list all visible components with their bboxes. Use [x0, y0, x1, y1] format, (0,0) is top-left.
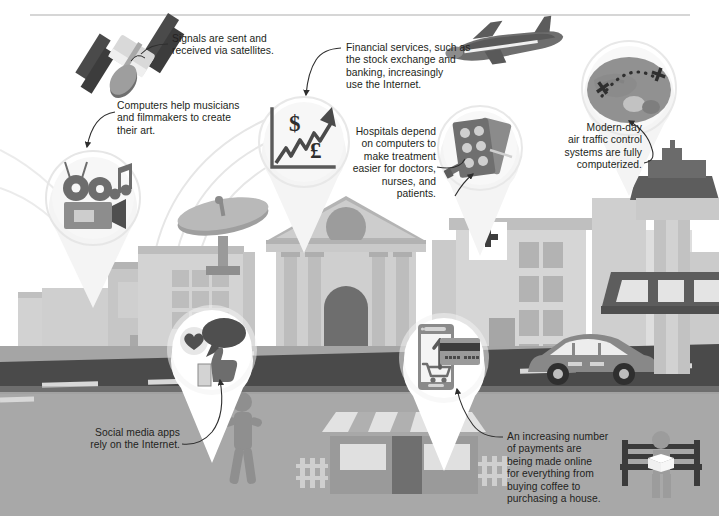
- leader-satellite-tick: [131, 56, 145, 61]
- air-traffic-control-callout: Modern-day air traffic control systems a…: [540, 122, 642, 172]
- financial-services-callout: Financial services, such as the stock ex…: [346, 42, 510, 92]
- leader-hospitals-a: [437, 159, 465, 168]
- leader-social: [182, 380, 222, 444]
- social-media-callout: Social media apps rely on the Internet.: [68, 427, 180, 452]
- online-payments-callout: An increasing number of payments are bei…: [507, 431, 639, 505]
- leader-payments: [457, 389, 503, 437]
- music-film-callout: Computers help musicians and filmmakers …: [117, 100, 299, 137]
- leader-music-film: [87, 112, 115, 147]
- hospitals-callout: Hospitals depend on computers to make tr…: [330, 126, 436, 200]
- leader-satellites: [141, 44, 168, 54]
- satellite-callout: Signals are sent and received via satell…: [172, 33, 332, 58]
- leader-hospitals-b: [455, 174, 473, 196]
- infographic-canvas: $ £: [0, 0, 719, 516]
